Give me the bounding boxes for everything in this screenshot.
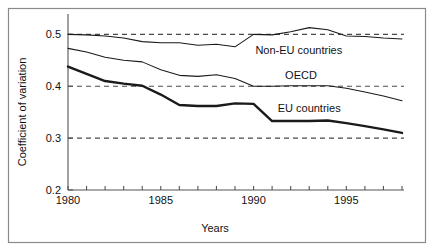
y-axis-title: Coefficient of variation — [16, 58, 28, 167]
chart-figure: 1980198519901995 0.20.30.40.5 Non-EU cou… — [0, 0, 434, 251]
y-tick-label-0-2: 0.2 — [46, 184, 61, 196]
series-label-oecd: OECD — [285, 69, 317, 81]
x-axis-title: Years — [201, 222, 229, 234]
y-tick-label-0-5: 0.5 — [46, 28, 61, 40]
x-tick-label-1985: 1985 — [149, 194, 173, 206]
x-tick-label-1990: 1990 — [241, 194, 265, 206]
x-tick-label-1995: 1995 — [334, 194, 358, 206]
series-label-eu-countries: EU countries — [278, 102, 341, 114]
y-tick-label-0-4: 0.4 — [46, 80, 61, 92]
y-tick-label-0-3: 0.3 — [46, 132, 61, 144]
series-label-non-eu-countries: Non-EU countries — [255, 44, 342, 56]
line-chart-canvas: 1980198519901995 0.20.30.40.5 Non-EU cou… — [0, 0, 434, 251]
